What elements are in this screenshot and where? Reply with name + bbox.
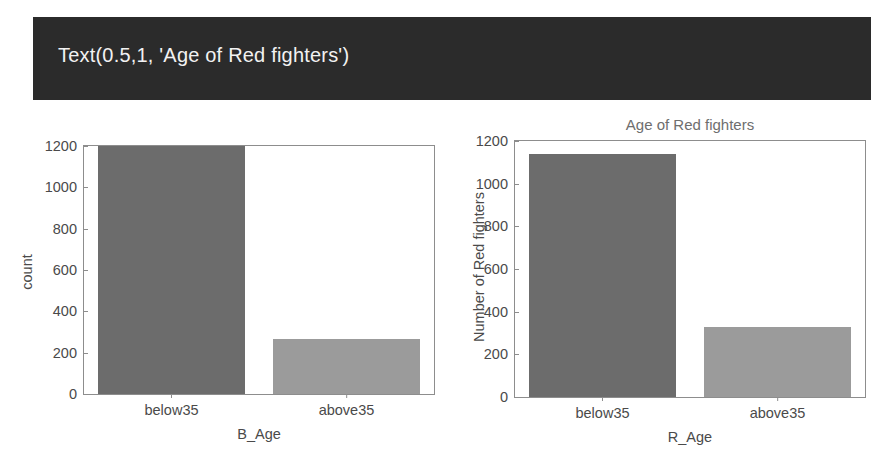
x-tick-mark <box>171 394 172 398</box>
bar-below35 <box>529 154 676 397</box>
y-axis-label-right: Number of Red fighters <box>471 192 487 342</box>
y-tick-800: 800 <box>484 217 515 235</box>
bar-group-left <box>84 146 434 394</box>
y-tick-400: 400 <box>484 303 515 321</box>
y-tick-mark <box>84 187 88 188</box>
x-tick-label: above35 <box>319 402 375 418</box>
y-tick-200: 200 <box>484 345 515 363</box>
y-tick-mark <box>84 353 88 354</box>
x-tick-above35: above35 <box>750 397 806 421</box>
bar-below35 <box>98 146 245 394</box>
y-tick-label: 1200 <box>476 133 515 149</box>
y-tick-label: 800 <box>53 221 84 237</box>
y-tick-mark <box>84 229 88 230</box>
y-tick-label: 1200 <box>45 138 84 154</box>
y-tick-800: 800 <box>53 220 84 238</box>
x-tick-below35: below35 <box>144 394 198 418</box>
y-tick-mark <box>84 394 88 395</box>
y-tick-mark <box>515 141 519 142</box>
y-tick-1200: 1200 <box>45 137 84 155</box>
bar-above35 <box>704 327 851 397</box>
y-tick-mark <box>515 184 519 185</box>
plot-area-right: 020040060080010001200 below35above35 <box>514 140 866 398</box>
y-tick-label: 0 <box>500 389 515 405</box>
x-axis-label-right: R_Age <box>514 429 866 445</box>
y-tick-label: 400 <box>484 304 515 320</box>
x-tick-below35: below35 <box>575 397 629 421</box>
y-tick-0: 0 <box>500 388 515 406</box>
x-tick-above35: above35 <box>319 394 375 418</box>
x-tick-label: below35 <box>575 405 629 421</box>
y-tick-mark <box>515 269 519 270</box>
y-tick-0: 0 <box>69 385 84 403</box>
y-tick-label: 600 <box>484 261 515 277</box>
y-tick-1000: 1000 <box>476 175 515 193</box>
y-tick-label: 600 <box>53 262 84 278</box>
y-tick-label: 1000 <box>45 179 84 195</box>
y-tick-400: 400 <box>53 302 84 320</box>
bar-above35 <box>273 339 420 394</box>
x-tick-mark <box>602 397 603 401</box>
y-tick-label: 0 <box>69 386 84 402</box>
y-tick-mark <box>84 311 88 312</box>
x-tick-mark <box>346 394 347 398</box>
y-tick-mark <box>515 226 519 227</box>
x-axis-label-left: B_Age <box>83 426 435 442</box>
banner-text: Text(0.5,1, 'Age of Red fighters') <box>58 44 349 67</box>
y-tick-label: 400 <box>53 303 84 319</box>
plot-area-left: 020040060080010001200 below35above35 <box>83 145 435 395</box>
chart-title-right: Age of Red fighters <box>514 116 866 133</box>
y-tick-label: 800 <box>484 218 515 234</box>
chart-panel-right: Age of Red fighters 02004006008001000120… <box>446 104 891 455</box>
y-tick-mark <box>515 354 519 355</box>
x-tick-mark <box>777 397 778 401</box>
x-tick-label: above35 <box>750 405 806 421</box>
y-tick-label: 200 <box>53 345 84 361</box>
y-axis-label-left: count <box>19 242 35 302</box>
y-tick-200: 200 <box>53 344 84 362</box>
y-tick-1200: 1200 <box>476 132 515 150</box>
y-tick-label: 200 <box>484 346 515 362</box>
title-banner: Text(0.5,1, 'Age of Red fighters') <box>33 17 871 100</box>
chart-panel-left: 020040060080010001200 below35above35 B_A… <box>0 104 445 455</box>
y-tick-label: 1000 <box>476 176 515 192</box>
y-tick-mark <box>84 146 88 147</box>
x-tick-label: below35 <box>144 402 198 418</box>
y-tick-mark <box>84 270 88 271</box>
y-tick-1000: 1000 <box>45 178 84 196</box>
y-tick-mark <box>515 312 519 313</box>
figure-area: 020040060080010001200 below35above35 B_A… <box>0 104 891 455</box>
y-tick-600: 600 <box>53 261 84 279</box>
y-tick-600: 600 <box>484 260 515 278</box>
y-tick-mark <box>515 397 519 398</box>
bar-group-right <box>515 141 865 397</box>
